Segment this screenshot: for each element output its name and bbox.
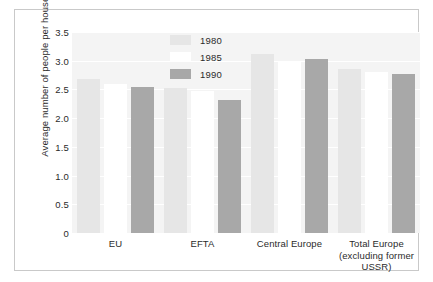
legend-item-1980: 1980 bbox=[170, 33, 260, 47]
bar-total-1985 bbox=[365, 72, 388, 233]
x-axis-label-3: Total Europe(excluding formerUSSR) bbox=[333, 238, 420, 273]
y-axis-tick-label: 3.0 bbox=[35, 55, 69, 66]
bar-efta-1980 bbox=[164, 88, 187, 233]
x-axis-category-labels: EUEFTACentral EuropeTotal Europe(excludi… bbox=[72, 238, 420, 282]
legend-swatch-1990 bbox=[170, 69, 191, 79]
bar-efta-1985 bbox=[191, 91, 214, 233]
x-axis-label-0: EU bbox=[72, 238, 159, 250]
y-axis-tick-label: 2.5 bbox=[35, 84, 69, 95]
bar-eu-1985 bbox=[104, 84, 127, 233]
y-axis-tick-label: 0.5 bbox=[35, 199, 69, 210]
y-axis-tick-label: 2.0 bbox=[35, 113, 69, 124]
bar-central-1990 bbox=[305, 59, 328, 233]
bar-total-1990 bbox=[392, 74, 415, 233]
legend-label-1980: 1980 bbox=[200, 35, 222, 46]
bar-total-1980 bbox=[338, 69, 361, 233]
legend-item-1985: 1985 bbox=[170, 50, 260, 64]
y-axis-tick-label: 1.0 bbox=[35, 170, 69, 181]
x-axis-label-1: EFTA bbox=[159, 238, 246, 250]
bar-central-1985 bbox=[278, 62, 301, 233]
legend-swatch-1980 bbox=[170, 35, 191, 45]
chart-legend: 198019851990 bbox=[170, 33, 260, 84]
y-axis-tick-label: 0 bbox=[35, 228, 69, 239]
legend-label-1985: 1985 bbox=[200, 52, 222, 63]
chart-figure: Average number of people per household 0… bbox=[0, 0, 433, 282]
bar-efta-1990 bbox=[218, 100, 241, 233]
bar-eu-1980 bbox=[77, 79, 100, 233]
figure-border: Average number of people per household 0… bbox=[14, 9, 419, 271]
legend-item-1990: 1990 bbox=[170, 67, 260, 81]
legend-label-1990: 1990 bbox=[200, 69, 222, 80]
y-axis-tick-label: 3.5 bbox=[35, 27, 69, 38]
bar-eu-1990 bbox=[131, 87, 154, 233]
legend-swatch-1985 bbox=[170, 52, 191, 62]
y-axis-tick-label: 1.5 bbox=[35, 141, 69, 152]
y-axis-tick-labels: 00.51.01.52.02.53.03.5 bbox=[29, 32, 69, 233]
x-axis-label-2: Central Europe bbox=[246, 238, 333, 250]
